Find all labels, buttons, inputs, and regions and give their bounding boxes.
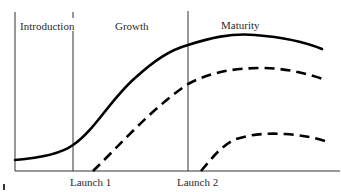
phase-label-introduction: Introduction bbox=[20, 21, 74, 32]
product-2-sales-curve bbox=[201, 134, 325, 171]
phase-label-maturity: Maturity bbox=[221, 20, 260, 31]
product-life-cycle-diagram: Introduction Growth Maturity Launch 1 La… bbox=[0, 0, 341, 192]
launch-1-label: Launch 1 bbox=[70, 177, 111, 188]
launch-2-label: Launch 2 bbox=[177, 177, 218, 188]
corner-mark bbox=[3, 184, 5, 190]
phase-label-growth: Growth bbox=[115, 21, 149, 32]
